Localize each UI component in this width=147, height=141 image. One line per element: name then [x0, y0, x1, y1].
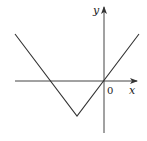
y-axis-label: y [92, 4, 100, 17]
v-graph-line [15, 34, 139, 116]
origin-label: 0 [107, 85, 113, 96]
x-axis-label: x [129, 84, 136, 97]
function-graph: y 0 x [0, 0, 147, 141]
